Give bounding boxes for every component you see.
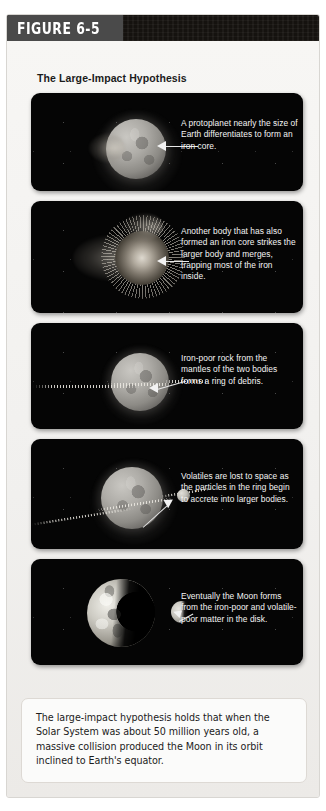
stage-2-arrow-head	[157, 256, 166, 266]
protoplanet-haze	[89, 133, 125, 163]
figure-number-label: FIGURE 6-5	[17, 19, 100, 38]
stage-3-arrow-head	[149, 383, 158, 393]
figure-card: FIGURE 6-5 The Large-Impact Hypothesis A…	[6, 14, 320, 798]
stage-panel-5: Eventually the Moon forms from the iron-…	[31, 559, 303, 665]
stage-5-caption: Eventually the Moon forms from the iron-…	[181, 591, 299, 625]
proto-earth-body	[101, 467, 163, 529]
figure-header-bar: FIGURE 6-5	[7, 15, 319, 41]
figure-number-tab: FIGURE 6-5	[7, 15, 123, 41]
stage-panel-4: Volatiles are lost to space as the parti…	[31, 439, 303, 549]
figure-title: The Large-Impact Hypothesis	[37, 72, 187, 84]
stage-1-arrow-head	[157, 141, 166, 151]
impact-ejecta-up	[123, 213, 163, 241]
stage-panel-1: A protoplanet nearly the size of Earth d…	[31, 93, 303, 191]
stage-4-caption: Volatiles are lost to space as the parti…	[181, 471, 299, 505]
stage-3-caption: Iron-poor rock from the mantles of the t…	[181, 353, 299, 387]
stage-2-caption: Another body that has also formed an iro…	[181, 226, 299, 282]
stage-panel-3: Iron-poor rock from the mantles of the t…	[31, 323, 303, 429]
figure-body: The Large-Impact Hypothesis A protoplane…	[7, 41, 319, 797]
summary-card: The large-impact hypothesis holds that w…	[21, 698, 307, 783]
earth-body	[87, 579, 155, 647]
stage-1-caption: A protoplanet nearly the size of Earth d…	[181, 118, 299, 152]
stage-panel-2: Another body that has also formed an iro…	[31, 201, 303, 313]
summary-text: The large-impact hypothesis holds that w…	[36, 711, 292, 769]
merged-planet-body	[111, 353, 169, 411]
